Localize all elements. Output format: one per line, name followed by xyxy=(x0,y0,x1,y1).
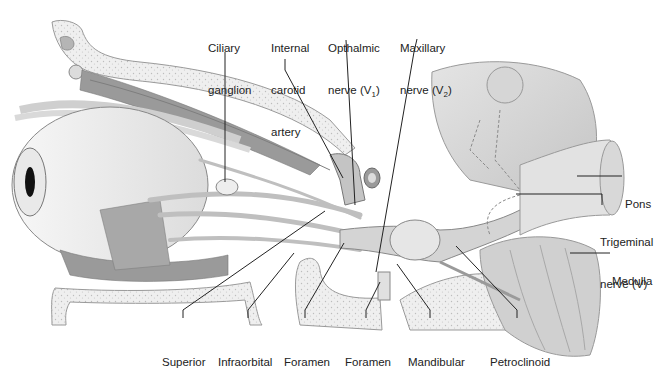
label-foramen-ovale: Foramen ovale xyxy=(345,327,391,377)
label-close: ) xyxy=(376,84,380,96)
label-line: Infraorbital xyxy=(218,355,272,369)
label-line: nerve (V xyxy=(400,84,443,96)
label-line: Medulla xyxy=(612,274,652,288)
label-opthalmic-nerve: Opthalmic nerve (V1) xyxy=(328,13,380,116)
label-line: Maxillary xyxy=(400,41,452,55)
pupil xyxy=(25,167,35,197)
label-ciliary-ganglion: Ciliary ganglion xyxy=(208,13,251,111)
label-line: Superior xyxy=(162,355,205,369)
label-line: Mandibular xyxy=(408,355,465,369)
label-line: Opthalmic xyxy=(328,41,380,55)
label-line: artery xyxy=(271,125,309,139)
label-foramen-rotundum: Foramen rotundum xyxy=(284,327,333,377)
orbital-floor-bone xyxy=(52,282,262,325)
label-maxillary-nerve: Maxillary nerve (V2) xyxy=(400,13,452,116)
label-internal-carotid-artery: Internal carotid artery xyxy=(271,13,309,153)
label-mandibular-nerve: Mandibular nerve (V3) xyxy=(408,327,465,377)
label-infraorbital-nerve: Infraorbital nerve xyxy=(218,327,272,377)
label-superior-orbital-fissure: Superior orbital fissure xyxy=(162,327,205,377)
label-medulla: Medulla xyxy=(612,246,652,302)
label-petroclinoid-ligament: Petroclinoid ligament xyxy=(490,327,550,377)
sphenoid-bone xyxy=(295,258,382,330)
trochlea xyxy=(69,65,83,79)
label-line: Ciliary xyxy=(208,41,251,55)
label-line: carotid xyxy=(271,83,309,97)
ciliary-ganglion-body xyxy=(216,179,238,195)
label-line: Foramen xyxy=(284,355,333,369)
label-line: ganglion xyxy=(208,83,251,97)
label-line: Petroclinoid xyxy=(490,355,550,369)
label-close: ) xyxy=(448,84,452,96)
label-line: Internal xyxy=(271,41,309,55)
label-line: Foramen xyxy=(345,355,391,369)
label-line: nerve (V xyxy=(328,84,371,96)
